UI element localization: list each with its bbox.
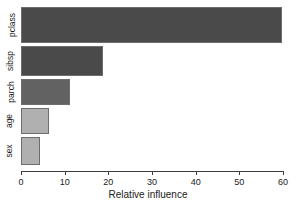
y-tick-label-age: age (0, 115, 18, 127)
x-tick-50 (239, 171, 240, 175)
x-tick-20 (108, 171, 109, 175)
plot-area (21, 0, 283, 168)
x-tick-60 (283, 171, 284, 175)
bar-parch (21, 79, 70, 105)
x-tick-label-30: 30 (137, 177, 167, 187)
x-tick-40 (196, 171, 197, 175)
x-tick-label-20: 20 (93, 177, 123, 187)
bar-sex (21, 137, 40, 165)
bar-pclass (21, 7, 282, 43)
x-tick-10 (65, 171, 66, 175)
x-tick-0 (21, 171, 22, 175)
x-axis-title: Relative influence (0, 189, 296, 200)
y-tick-label-parch: parch (0, 86, 18, 98)
x-tick-label-50: 50 (224, 177, 254, 187)
x-tick-30 (152, 171, 153, 175)
bar-sibsp (21, 46, 103, 76)
y-tick-label-sex: sex (0, 145, 18, 157)
relative-influence-bar-chart: pclasssibspparchagesex 0102030405060 Rel… (0, 0, 296, 205)
x-tick-label-40: 40 (181, 177, 211, 187)
x-tick-label-10: 10 (50, 177, 80, 187)
x-tick-label-0: 0 (6, 177, 36, 187)
y-tick-label-sibsp: sibsp (0, 55, 18, 67)
bar-age (21, 108, 49, 134)
x-tick-label-60: 60 (268, 177, 296, 187)
y-tick-label-pclass: pclass (0, 19, 18, 31)
